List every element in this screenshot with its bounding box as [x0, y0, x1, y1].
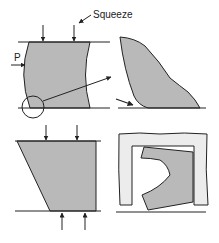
- panel-die-cavity: [116, 133, 208, 212]
- squeeze-label: Squeeze: [93, 9, 133, 20]
- panel-corner-detail: [116, 37, 206, 108]
- folded-corner-material: [120, 37, 200, 108]
- tapered-workpiece: [17, 141, 96, 211]
- panel-barrel-compression: Squeeze P: [11, 9, 133, 118]
- fold-direction-arrow: [116, 99, 133, 105]
- panel-tapered-compression: [15, 125, 101, 230]
- squeeze-label-leader: [79, 15, 91, 23]
- force-p-label: P: [14, 52, 21, 63]
- forming-diagram: Squeeze P: [0, 0, 219, 243]
- deformed-workpiece: [141, 147, 193, 210]
- barrelled-workpiece: [24, 42, 90, 108]
